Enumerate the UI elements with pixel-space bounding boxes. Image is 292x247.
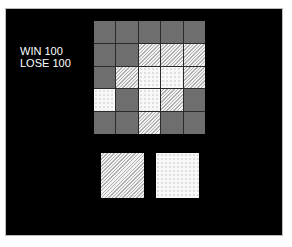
grid-cell-hatched [161, 89, 182, 111]
grid-cell-gray [116, 112, 137, 134]
choice-hatched-button[interactable] [101, 153, 144, 198]
grid-cell-gray [94, 67, 115, 89]
grid-cell-gray [116, 89, 137, 111]
grid-cell-gray [94, 21, 115, 43]
score-panel: WIN 100 LOSE 100 [20, 45, 71, 69]
grid-cell-gray [139, 21, 160, 43]
lose-score: LOSE 100 [20, 57, 71, 69]
grid-cell-dotted [139, 89, 160, 111]
pattern-grid [94, 21, 205, 134]
grid-cell-gray [116, 21, 137, 43]
win-score: WIN 100 [20, 45, 71, 57]
grid-cell-hatched [116, 67, 137, 89]
grid-cell-dotted [94, 89, 115, 111]
grid-cell-gray [184, 21, 205, 43]
grid-cell-gray [116, 44, 137, 66]
choice-dotted-button[interactable] [156, 153, 199, 198]
grid-cell-hatched [161, 44, 182, 66]
grid-cell-gray [161, 112, 182, 134]
grid-cell-gray [94, 112, 115, 134]
grid-cell-gray [184, 89, 205, 111]
grid-cell-hatched [139, 44, 160, 66]
game-screen: WIN 100 LOSE 100 [5, 8, 283, 236]
grid-cell-dotted [161, 67, 182, 89]
grid-cell-hatched [139, 112, 160, 134]
grid-cell-hatched [184, 67, 205, 89]
grid-cell-gray [161, 21, 182, 43]
grid-cell-hatched [184, 44, 205, 66]
grid-cell-gray [94, 44, 115, 66]
grid-cell-gray [184, 112, 205, 134]
grid-cell-dotted [139, 67, 160, 89]
